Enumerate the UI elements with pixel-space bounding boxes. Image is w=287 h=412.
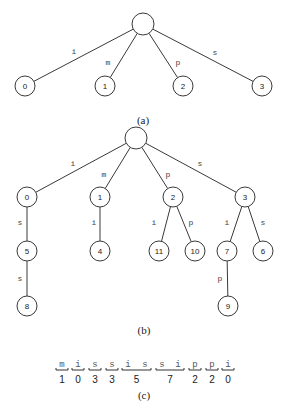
tree-edge bbox=[248, 206, 260, 241]
edge-label: p bbox=[176, 58, 181, 67]
sequence-char: i bbox=[225, 360, 230, 370]
group-value: 3 bbox=[92, 374, 98, 385]
group-value: 2 bbox=[192, 374, 198, 385]
edge-label: i bbox=[72, 47, 77, 56]
node-label: 10 bbox=[191, 247, 200, 256]
figure-b-tree: impssiipissp01235411107689 bbox=[17, 127, 273, 316]
tree-edge bbox=[36, 143, 127, 192]
tree-edge bbox=[146, 143, 237, 192]
node-label: 4 bbox=[98, 247, 103, 256]
sequence-char: m bbox=[59, 360, 64, 370]
sequence-char: s bbox=[142, 360, 147, 370]
group-value: 5 bbox=[134, 374, 140, 385]
node-label: 3 bbox=[243, 193, 248, 202]
root-node bbox=[125, 127, 147, 149]
node-label: 11 bbox=[155, 247, 164, 256]
sequence-char: s bbox=[159, 360, 164, 370]
edge-label: i bbox=[92, 218, 97, 227]
sequence-char: p bbox=[192, 360, 197, 370]
caption-c: (c) bbox=[138, 389, 151, 402]
tree-edge bbox=[105, 147, 130, 188]
edge-label: p bbox=[189, 218, 194, 227]
sequence-char: i bbox=[175, 360, 180, 370]
edge-label: p bbox=[218, 274, 223, 283]
tree-edge bbox=[162, 207, 171, 242]
edge-label: s bbox=[18, 274, 23, 283]
caption-b: (b) bbox=[138, 324, 151, 337]
group-value: 7 bbox=[167, 374, 173, 385]
node-label: 7 bbox=[225, 247, 230, 256]
root-node bbox=[132, 13, 154, 35]
tree-edge bbox=[153, 29, 253, 81]
node-label: 2 bbox=[181, 82, 186, 91]
tree-edge bbox=[227, 261, 228, 296]
edge-label: m bbox=[102, 170, 107, 179]
node-label: 8 bbox=[25, 302, 30, 311]
edge-label: s bbox=[213, 48, 218, 57]
figure-c-sequence: mississippi103357220 bbox=[56, 360, 234, 385]
node-label: 6 bbox=[261, 247, 266, 256]
group-value: 0 bbox=[75, 374, 81, 385]
edge-label: s bbox=[198, 159, 203, 168]
edge-label: m bbox=[106, 58, 111, 67]
tree-edge bbox=[110, 33, 137, 77]
edge-label: i bbox=[71, 159, 76, 168]
group-value: 0 bbox=[225, 374, 231, 385]
node-label: 2 bbox=[171, 193, 176, 202]
node-label: 1 bbox=[103, 82, 108, 91]
edge-label: i bbox=[225, 218, 230, 227]
node-label: 1 bbox=[98, 193, 103, 202]
caption-a: (a) bbox=[137, 114, 150, 127]
figure-a-trie: imps0123 bbox=[15, 13, 272, 96]
edge-label: p bbox=[166, 170, 171, 179]
node-label: 3 bbox=[260, 82, 265, 91]
suffix-tree-figure: imps0123 (a) impssiipissp01235411107689 … bbox=[0, 0, 287, 412]
node-label: 0 bbox=[23, 82, 28, 91]
edge-label: i bbox=[152, 218, 157, 227]
tree-edge bbox=[34, 29, 133, 81]
node-label: 5 bbox=[25, 247, 30, 256]
sequence-char: s bbox=[109, 360, 114, 370]
sequence-char: i bbox=[125, 360, 130, 370]
group-value: 2 bbox=[209, 374, 215, 385]
edge-label: s bbox=[261, 218, 266, 227]
sequence-char: i bbox=[75, 360, 80, 370]
tree-edge bbox=[230, 206, 242, 241]
node-label: 0 bbox=[25, 193, 30, 202]
sequence-char: p bbox=[209, 360, 214, 370]
node-label: 9 bbox=[226, 302, 231, 311]
edge-label: s bbox=[18, 218, 23, 227]
group-value: 3 bbox=[109, 374, 115, 385]
group-value: 1 bbox=[59, 374, 65, 385]
sequence-char: s bbox=[92, 360, 97, 370]
